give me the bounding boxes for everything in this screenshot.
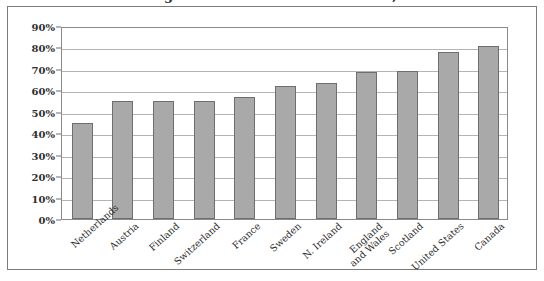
y-axis: 0%10%20%30%40%50%60%70%80%90% [8,7,61,240]
y-axis-tick-label: 80% [32,43,55,54]
x-axis-tick-label-line: Scotland [386,220,425,256]
gridline [62,49,507,50]
bar-netherlands[interactable] [72,123,93,220]
y-axis-tick-label: 60% [32,86,55,97]
y-axis-tick-label: 40% [32,129,55,140]
chart-frame: 0%10%20%30%40%50%60%70%80%90% Netherland… [7,6,537,270]
x-axis-tick-label-line: France [230,220,263,251]
y-axis-tick-label: 20% [32,172,55,183]
y-axis-tick-label: 0% [39,215,55,226]
plot-area [61,27,508,220]
y-axis-tick-label: 70% [32,64,55,75]
bar-united-states[interactable] [438,52,459,219]
chart-title-text: Percentage of households with a vehicle,… [0,0,544,3]
bar-france[interactable] [234,97,255,219]
x-axis-tick-label-line: Canada [472,220,506,253]
x-axis-tick-label-line: Sweden [268,220,304,254]
bar-austria[interactable] [112,101,133,219]
x-axis-tick-label-netherlands: Netherlands [69,221,100,250]
bar-finland[interactable] [153,101,174,219]
bar-n-ireland[interactable] [316,83,337,219]
x-axis-tick-label-line: Finland [147,220,182,253]
x-axis: NetherlandsAustriaFinlandSwitzerlandFran… [61,221,521,281]
bar-england-and-wales[interactable] [356,72,377,219]
bar-sweden[interactable] [275,86,296,219]
y-axis-tick-label: 50% [32,107,55,118]
bar-scotland[interactable] [397,71,418,219]
bar-canada[interactable] [478,46,499,219]
y-axis-tick-label: 90% [32,22,55,33]
x-axis-tick-label-line: Austria [107,220,140,252]
y-axis-tick-label: 30% [32,150,55,161]
bar-switzerland[interactable] [194,101,215,219]
y-axis-tick-label: 10% [32,193,55,204]
x-axis-tick-label-line: N. Ireland [300,220,343,261]
